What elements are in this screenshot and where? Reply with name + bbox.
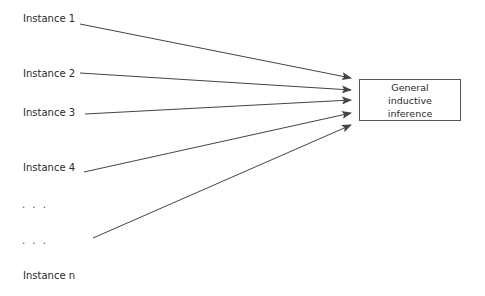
instance-1-label: Instance 1: [23, 13, 75, 25]
ellipsis-2: . . .: [22, 235, 48, 246]
instance-4-label: Instance 4: [23, 162, 75, 174]
general-inductive-inference-box: General inductive inference: [359, 79, 461, 121]
box-line-2: inductive: [388, 94, 432, 107]
ellipsis-1: . . .: [22, 199, 48, 210]
arrow-2: [80, 73, 351, 90]
instance-3-label: Instance 3: [23, 107, 75, 119]
instance-n-label: Instance n: [23, 270, 75, 282]
arrow-3: [85, 100, 351, 114]
inductive-inference-diagram: Instance 1 Instance 2 Instance 3 Instanc…: [0, 0, 485, 296]
arrow-1: [80, 24, 351, 78]
box-line-1: General: [391, 81, 428, 94]
arrows-layer: [0, 0, 485, 296]
box-line-3: inference: [388, 107, 432, 120]
instance-2-label: Instance 2: [23, 68, 75, 80]
